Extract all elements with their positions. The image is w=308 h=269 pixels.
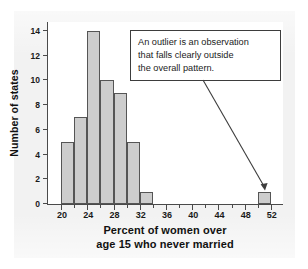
histogram-bar	[87, 31, 100, 204]
histogram-bar	[258, 192, 271, 204]
x-axis-tick-label: 52	[267, 211, 277, 220]
histogram-bar	[74, 117, 87, 204]
y-axis-tick: 0	[43, 203, 48, 204]
x-axis-tick-label: 32	[136, 211, 146, 220]
y-axis-tick: 12	[43, 55, 48, 56]
histogram-bar	[114, 93, 127, 204]
x-axis-minor-tick	[179, 204, 180, 208]
outlier-annotation-callout: An outlier is an observation that falls …	[130, 30, 281, 81]
x-axis-minor-tick	[258, 204, 259, 208]
x-axis-title-line-1: Percent of women over	[47, 224, 283, 238]
x-axis-minor-tick	[74, 204, 75, 208]
y-axis-tick-label: 8	[35, 101, 40, 110]
x-axis-minor-tick	[127, 204, 128, 208]
x-axis-tick: 36	[166, 204, 167, 210]
x-axis-tick: 40	[192, 204, 193, 210]
y-axis-tick: 2	[43, 178, 48, 179]
x-axis-minor-tick	[100, 204, 101, 208]
x-axis-minor-tick	[205, 204, 206, 208]
callout-line-3: the overall pattern.	[138, 62, 274, 75]
y-axis-tick: 14	[43, 30, 48, 31]
y-axis-tick-label: 10	[31, 76, 40, 85]
x-axis-tick-label: 40	[188, 211, 198, 220]
x-axis-minor-tick	[232, 204, 233, 208]
x-axis-tick-label: 36	[162, 211, 172, 220]
y-axis-tick-label: 0	[35, 200, 40, 209]
y-axis-tick-label: 4	[35, 150, 40, 159]
callout-line-1: An outlier is an observation	[138, 36, 274, 49]
x-axis-tick-label: 28	[110, 211, 120, 220]
x-axis-title: Percent of women over age 15 who never m…	[47, 224, 283, 252]
x-axis-tick: 44	[218, 204, 219, 210]
x-axis-title-line-2: age 15 who never married	[47, 238, 283, 252]
y-axis-tick-label: 2	[35, 175, 40, 184]
y-axis-title: Number of states	[8, 69, 20, 156]
y-axis-tick: 6	[43, 129, 48, 130]
x-axis-tick: 20	[61, 204, 62, 210]
y-axis-tick: 10	[43, 79, 48, 80]
x-axis-tick: 32	[140, 204, 141, 210]
histogram-bar	[61, 142, 74, 204]
x-axis-tick-label: 44	[214, 211, 224, 220]
y-axis-tick: 8	[43, 104, 48, 105]
histogram-figure: Number of states 02468101214202428323640…	[0, 0, 308, 269]
y-axis-tick-label: 6	[35, 126, 40, 135]
x-axis-tick: 24	[87, 204, 88, 210]
x-axis-tick-label: 48	[241, 211, 251, 220]
x-axis-tick: 48	[245, 204, 246, 210]
y-axis-tick-label: 14	[31, 27, 40, 36]
x-axis-tick: 28	[114, 204, 115, 210]
x-axis-tick-label: 24	[83, 211, 93, 220]
y-axis-tick: 4	[43, 154, 48, 155]
histogram-bar	[127, 142, 140, 204]
callout-line-2: that falls clearly outside	[138, 49, 274, 62]
x-axis-tick-label: 20	[57, 211, 67, 220]
histogram-bar	[140, 192, 153, 204]
y-axis-tick-label: 12	[31, 51, 40, 60]
x-axis-minor-tick	[153, 204, 154, 208]
histogram-bar	[100, 80, 113, 204]
x-axis-tick: 52	[271, 204, 272, 210]
